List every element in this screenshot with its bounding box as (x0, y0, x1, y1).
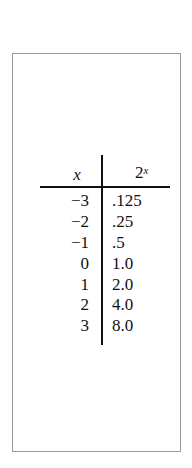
header-rule (40, 186, 170, 188)
header-2-pow-x: 2x (135, 165, 148, 181)
cell-x: −2 (71, 214, 89, 230)
cell-y: .25 (112, 214, 133, 230)
cell-x: 2 (81, 297, 90, 313)
cell-y: 8.0 (112, 318, 133, 334)
cell-y: 4.0 (112, 297, 133, 313)
cell-x: 3 (81, 318, 90, 334)
header-x: x (62, 167, 92, 183)
cell-x: 0 (81, 256, 90, 272)
cell-y: 2.0 (112, 277, 133, 293)
table-frame (12, 53, 181, 452)
cell-y: 1.0 (112, 256, 133, 272)
cell-x: −3 (71, 193, 89, 209)
cell-y: .125 (112, 193, 142, 209)
cell-y: .5 (112, 235, 125, 251)
column-divider (101, 155, 103, 345)
cell-x: 1 (81, 277, 90, 293)
header-base: 2 (135, 163, 144, 182)
cell-x: −1 (71, 235, 89, 251)
header-exponent: x (144, 164, 149, 176)
